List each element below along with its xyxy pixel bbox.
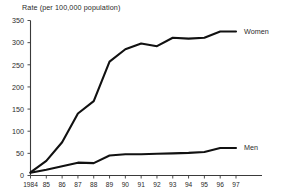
x-axis-tick-label: 90 [122,181,129,188]
x-axis-tick-label: 89 [106,181,113,188]
x-axis-tick-label: 92 [153,181,160,188]
chart-series-group [31,32,237,173]
series-label-women: Women [244,27,269,36]
x-axis-tick-label: 95 [201,181,208,188]
x-axis-tick-label: 1984 [23,181,38,188]
x-axis-tick-label: 86 [58,181,65,188]
x-axis-tick-label: 91 [137,181,144,188]
y-axis-tick-label: 100 [2,127,24,136]
y-axis-tick-label: 200 [2,83,24,92]
x-axis-tick-label: 88 [90,181,97,188]
series-label-men: Men [244,143,258,152]
y-axis-tick-label: 0 [2,171,24,180]
chart-plot-area [0,0,284,194]
series-line-men [31,148,237,173]
x-axis-tick-label: 87 [74,181,81,188]
y-axis-tick-label: 250 [2,61,24,70]
x-axis-tick-label: 97 [232,181,239,188]
chart-container: Rate (per 100,000 population) 0501001502… [0,0,284,194]
x-axis-tick-label: 93 [169,181,176,188]
x-axis-tick-label: 85 [43,181,50,188]
x-axis-tick-label: 94 [185,181,192,188]
y-axis-tick-label: 150 [2,105,24,114]
y-axis-tick-label: 50 [2,149,24,158]
y-axis-tick-label: 300 [2,38,24,47]
x-axis-tick-label: 96 [217,181,224,188]
y-axis-tick-label: 350 [2,16,24,25]
